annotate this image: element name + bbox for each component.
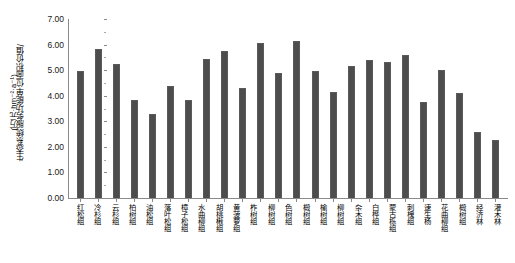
x-axis-tick-mark <box>387 199 388 202</box>
bar-slot <box>89 19 107 198</box>
y-axis-tick-labels: 7.006.005.004.003.002.001.000.00 <box>36 19 68 200</box>
y-axis-title-line1: 生态系统服务功能单位面积价值/ <box>18 44 27 161</box>
x-axis-category-labels: 红松组冷杉组云杉组柏树组油松组落叶松组樟子松组水曲柳组胡桃楸组黄菠萝组柞树组柳树… <box>68 203 508 261</box>
x-axis-tick-mark <box>495 199 496 202</box>
x-axis-category-label: 花曲柳组 <box>441 203 448 231</box>
x-axis-category-label: 冷杉组 <box>93 203 100 224</box>
x-axis-category-label: 椴树组 <box>302 203 309 224</box>
bar-slot <box>378 19 396 198</box>
x-label-slot: 油松组 <box>140 203 157 261</box>
x-axis-tick-mark <box>170 199 171 202</box>
x-axis-category-label: 红松组 <box>76 203 83 224</box>
x-axis-tick-mark <box>224 199 225 202</box>
bar <box>131 100 138 198</box>
bar <box>167 86 174 199</box>
bar-slot <box>270 19 288 198</box>
x-axis-category-label: 榆树组 <box>319 203 326 224</box>
bar <box>366 60 373 198</box>
x-axis-tick-mark <box>134 199 135 202</box>
x-axis-tick-mark <box>188 199 189 202</box>
y-axis-tick-label: 5.00 <box>47 65 64 75</box>
bar <box>474 132 481 198</box>
x-axis-category-label: 杂木组 <box>354 203 361 224</box>
bar <box>95 49 102 198</box>
x-label-slot: 落叶松组 <box>158 203 175 261</box>
bar <box>239 88 246 198</box>
bar <box>293 41 300 198</box>
x-axis-category-label: 黄菠萝组 <box>232 203 239 231</box>
y-axis-tick-label: 4.00 <box>47 91 64 101</box>
x-axis-category-label: 云杉组 <box>111 203 118 224</box>
x-axis-category-label: 白桦组 <box>371 203 378 224</box>
x-axis-category-label: 速生杨 <box>423 203 430 224</box>
bar <box>113 64 120 198</box>
x-axis-tick-mark <box>206 199 207 202</box>
x-axis-category-label: 刺槐组 <box>406 203 413 224</box>
x-axis-category-label: 色树组 <box>284 203 291 224</box>
x-label-slot: 刺槐组 <box>401 203 418 261</box>
x-axis-tick-mark <box>477 199 478 202</box>
x-label-slot: 胡桃楸组 <box>210 203 227 261</box>
bar <box>185 100 192 198</box>
x-axis-category-label: 胡桃楸组 <box>215 203 222 231</box>
x-axis-tick-mark <box>242 199 243 202</box>
bar-slot <box>288 19 306 198</box>
x-axis-category-label: 柳树组 <box>267 203 274 224</box>
bar <box>149 114 156 198</box>
x-label-slot: 黄菠萝组 <box>227 203 244 261</box>
bar-slot <box>487 19 505 198</box>
bar-slot <box>324 19 342 198</box>
x-axis-category-label: 水曲柳组 <box>197 203 204 231</box>
x-axis-category-label: 落叶松组 <box>163 203 170 231</box>
x-axis-tick-mark <box>116 199 117 202</box>
bar-slot <box>143 19 161 198</box>
bar-slot <box>433 19 451 198</box>
bar-slot <box>179 19 197 198</box>
bar-series <box>68 19 508 198</box>
x-label-slot: 速生杨 <box>418 203 435 261</box>
bar <box>77 71 84 198</box>
y-axis-title: (万元·hm⁻²·a⁻¹) 生态系统服务功能单位面积价值/ <box>0 0 36 205</box>
x-label-slot: 经济林 <box>470 203 487 261</box>
bar <box>420 102 427 198</box>
x-axis-tick-mark <box>152 199 153 202</box>
y-axis-tick-label: 6.00 <box>47 40 64 50</box>
x-label-slot: 水曲柳组 <box>193 203 210 261</box>
y-axis-tick-label: 1.00 <box>47 167 64 177</box>
bar-slot <box>469 19 487 198</box>
bar <box>330 92 337 198</box>
x-axis-tick-mark <box>315 199 316 202</box>
plot-area <box>68 19 508 199</box>
x-label-slot: 杂木组 <box>349 203 366 261</box>
y-axis-tick-label: 2.00 <box>47 142 64 152</box>
bar <box>312 71 319 198</box>
y-axis-tick-label: 3.00 <box>47 116 64 126</box>
x-label-slot: 椴树组 <box>453 203 470 261</box>
bar <box>348 66 355 198</box>
bar-slot <box>451 19 469 198</box>
x-axis-category-label: 柳树组 <box>336 203 343 224</box>
x-axis-tick-mark <box>260 199 261 202</box>
x-axis-category-label: 柏树组 <box>128 203 135 224</box>
x-label-slot: 冷杉组 <box>88 203 105 261</box>
y-axis-tick-label: 0.00 <box>47 193 64 203</box>
bar-slot <box>198 19 216 198</box>
x-axis-tick-mark <box>369 199 370 202</box>
bar-slot <box>342 19 360 198</box>
bar <box>275 73 282 198</box>
x-axis-category-label: 蒙古栎组 <box>388 203 395 231</box>
y-axis-tick-label: 7.00 <box>47 14 64 24</box>
x-axis-tick-mark <box>441 199 442 202</box>
x-label-slot: 柳树组 <box>262 203 279 261</box>
x-label-slot: 红松组 <box>71 203 88 261</box>
x-axis-tick-mark <box>333 199 334 202</box>
x-label-slot: 椴树组 <box>297 203 314 261</box>
x-axis-tick-mark <box>98 199 99 202</box>
x-axis-category-label: 经济林 <box>475 203 482 224</box>
x-axis-tick-mark <box>459 199 460 202</box>
bar-slot <box>396 19 414 198</box>
bar-slot <box>71 19 89 198</box>
x-label-slot: 白桦组 <box>366 203 383 261</box>
x-axis-category-label: 椴树组 <box>458 203 465 224</box>
x-axis-category-label: 灌木林 <box>493 203 500 224</box>
